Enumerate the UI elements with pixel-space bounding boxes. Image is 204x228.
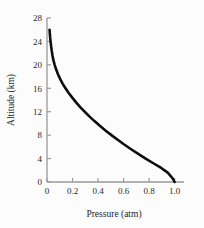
y-tick-label: 28 xyxy=(33,13,43,23)
x-tick-label: 0.2 xyxy=(67,186,78,196)
chart-figure: 00.20.40.60.81.0 0481216202428 Pressure … xyxy=(0,0,204,228)
y-tick-label: 24 xyxy=(33,37,43,47)
x-axis-title: Pressure (atm) xyxy=(86,209,141,220)
y-tick-label: 8 xyxy=(38,130,43,140)
y-tick-label: 20 xyxy=(33,60,43,70)
x-tick-label: 0.4 xyxy=(92,186,104,196)
y-axis-title: Altitude (km) xyxy=(6,74,17,126)
y-tick-label: 0 xyxy=(38,177,43,187)
x-tick-label: 0.6 xyxy=(118,186,130,196)
x-tick-label: 0.8 xyxy=(143,186,155,196)
altitude-pressure-chart: 00.20.40.60.81.0 0481216202428 Pressure … xyxy=(0,0,204,228)
x-tick-label: 1.0 xyxy=(169,186,181,196)
x-tick-label: 0 xyxy=(45,186,50,196)
y-tick-label: 4 xyxy=(38,154,43,164)
y-tick-label: 12 xyxy=(33,107,42,117)
y-tick-label: 16 xyxy=(33,84,43,94)
